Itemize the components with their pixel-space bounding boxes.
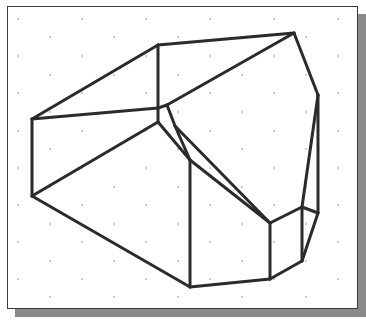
grid-dot	[113, 36, 115, 38]
solid-edge	[302, 213, 318, 261]
grid-dot	[81, 130, 83, 132]
grid-dot	[49, 148, 51, 150]
grid-dot	[113, 223, 115, 225]
grid-dot	[49, 36, 51, 38]
grid-dot	[17, 130, 19, 132]
grid-dot	[49, 296, 51, 298]
grid-dot	[241, 148, 243, 150]
solid-edge	[302, 95, 318, 207]
grid-dot	[209, 18, 211, 20]
grid-dot	[305, 260, 307, 262]
grid-dot	[81, 18, 83, 20]
grid-dot	[49, 260, 51, 262]
grid-dot	[305, 74, 307, 76]
grid-dot	[209, 55, 211, 57]
solid-edge	[190, 279, 270, 287]
grid-dot	[209, 130, 211, 132]
solid-edge	[167, 105, 175, 126]
grid-dot	[17, 241, 19, 243]
grid-dot	[49, 111, 51, 113]
grid-dot	[241, 74, 243, 76]
grid-dot	[241, 260, 243, 262]
grid-dot	[305, 296, 307, 298]
grid-dot	[113, 260, 115, 262]
grid-dot	[273, 18, 275, 20]
grid-dot	[241, 186, 243, 188]
grid-dot	[209, 241, 211, 243]
grid-dot	[177, 36, 179, 38]
grid-dot	[337, 204, 339, 206]
solid-edge	[190, 160, 270, 223]
solid-edge	[270, 207, 302, 223]
grid-dot	[209, 167, 211, 169]
grid-dot	[17, 278, 19, 280]
grid-dot	[81, 241, 83, 243]
solid-edge	[32, 108, 158, 119]
grid-dot	[17, 55, 19, 57]
grid-dot	[305, 223, 307, 225]
grid-dot	[17, 92, 19, 94]
grid-dot	[337, 55, 339, 57]
grid-dot	[17, 167, 19, 169]
grid-dot	[81, 55, 83, 57]
grid-dot	[273, 204, 275, 206]
grid-dot	[241, 296, 243, 298]
grid-dot	[209, 204, 211, 206]
grid-dot	[209, 278, 211, 280]
grid-dot	[337, 92, 339, 94]
grid-dot	[113, 296, 115, 298]
grid-dot	[209, 92, 211, 94]
grid-dot	[177, 111, 179, 113]
grid-dot	[241, 111, 243, 113]
grid-dot	[337, 130, 339, 132]
solid-edge	[32, 196, 190, 287]
grid-dot	[177, 296, 179, 298]
solid-edges	[32, 33, 318, 287]
grid-dot	[81, 92, 83, 94]
grid-dot	[305, 111, 307, 113]
grid-dot	[17, 18, 19, 20]
grid-dot	[337, 18, 339, 20]
grid-dot	[305, 36, 307, 38]
grid-dot	[145, 241, 147, 243]
grid-dot	[81, 278, 83, 280]
grid-dot	[273, 92, 275, 94]
grid-dot	[145, 18, 147, 20]
grid-dot	[273, 241, 275, 243]
grid-dot	[241, 223, 243, 225]
grid-dot	[273, 55, 275, 57]
grid-dot	[305, 148, 307, 150]
grid-dot	[177, 260, 179, 262]
grid-dot	[17, 204, 19, 206]
grid-dots	[17, 18, 339, 298]
grid-dot	[177, 186, 179, 188]
grid-dot	[177, 74, 179, 76]
grid-dot	[337, 167, 339, 169]
grid-dot	[337, 278, 339, 280]
solid-edge	[158, 122, 190, 160]
grid-dot	[49, 223, 51, 225]
solid-edge	[302, 207, 318, 213]
solid-edge	[270, 261, 302, 279]
solid-edge	[32, 45, 158, 119]
grid-dot	[177, 223, 179, 225]
grid-dot	[145, 278, 147, 280]
grid-dot	[113, 186, 115, 188]
grid-dot	[273, 167, 275, 169]
grid-dot	[145, 204, 147, 206]
grid-dot	[145, 167, 147, 169]
grid-dot	[337, 241, 339, 243]
grid-dot	[273, 130, 275, 132]
grid-dot	[81, 204, 83, 206]
solid-edge	[294, 33, 318, 95]
grid-dot	[145, 92, 147, 94]
grid-dot	[49, 74, 51, 76]
solid-edge	[32, 122, 158, 196]
grid-dot	[113, 74, 115, 76]
grid-dot	[145, 55, 147, 57]
